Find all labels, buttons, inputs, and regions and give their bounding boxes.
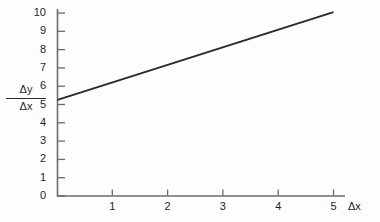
x-tick-label-4: 4 — [268, 201, 288, 212]
y-tick-label-2: 2 — [24, 153, 46, 164]
x-tick-label-2: 2 — [158, 201, 178, 212]
y-axis-title: Δy Δx — [6, 83, 46, 114]
y-tick-label-8: 8 — [24, 44, 46, 55]
chart-figure: 0 1 2 3 4 5 6 7 8 9 10 1 2 3 4 5 Δy Δx Δ… — [0, 0, 380, 222]
y-tick-label-7: 7 — [24, 62, 46, 73]
y-tick-label-0: 0 — [24, 190, 46, 201]
plot-canvas — [0, 0, 380, 222]
y-axis-title-denominator: Δx — [6, 99, 46, 114]
x-tick-label-3: 3 — [213, 201, 233, 212]
x-tick-label-1: 1 — [102, 201, 122, 212]
y-tick-label-1: 1 — [24, 172, 46, 183]
y-tick-label-9: 9 — [24, 25, 46, 36]
y-tick-label-4: 4 — [24, 117, 46, 128]
x-tick-label-5: 5 — [324, 201, 344, 212]
y-tick-label-3: 3 — [24, 135, 46, 146]
y-tick-label-10: 10 — [24, 7, 46, 18]
y-axis-title-numerator: Δy — [6, 83, 46, 99]
x-axis-title: Δx — [348, 200, 361, 212]
